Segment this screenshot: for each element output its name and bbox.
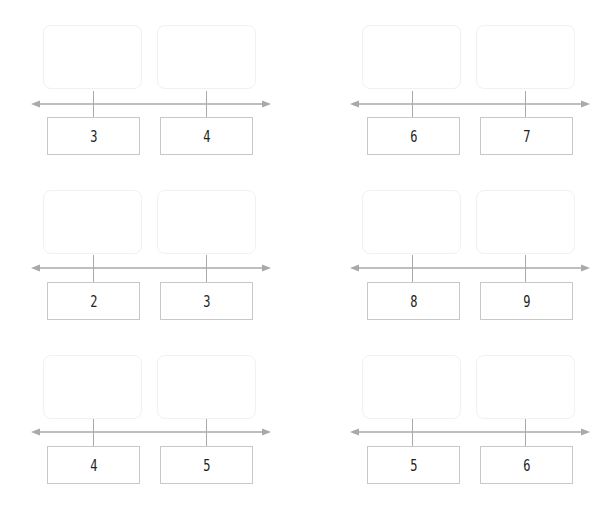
number-line-axis: [350, 98, 590, 110]
answer-box[interactable]: [157, 355, 256, 419]
tick-mark: [412, 255, 413, 282]
answer-box[interactable]: [476, 25, 575, 89]
tick-mark: [525, 255, 526, 282]
tick-mark: [93, 91, 94, 117]
number-line-group: 3 4: [31, 25, 281, 165]
answer-box[interactable]: [476, 190, 575, 254]
number-box: 6: [480, 446, 573, 484]
tick-mark: [206, 419, 207, 446]
tick-mark: [93, 419, 94, 446]
tick-mark: [525, 91, 526, 117]
number-box: 9: [480, 282, 573, 320]
number-box: 4: [160, 117, 253, 155]
answer-box[interactable]: [43, 25, 142, 89]
number-label: 6: [410, 127, 417, 146]
answer-box[interactable]: [157, 25, 256, 89]
answer-box[interactable]: [362, 355, 461, 419]
number-label: 9: [523, 292, 530, 311]
answer-box[interactable]: [476, 355, 575, 419]
answer-box[interactable]: [157, 190, 256, 254]
number-label: 5: [410, 456, 417, 475]
answer-box[interactable]: [43, 190, 142, 254]
number-label: 5: [203, 456, 210, 475]
number-line-axis: [31, 426, 271, 438]
tick-mark: [206, 91, 207, 117]
tick-mark: [412, 91, 413, 117]
number-label: 7: [523, 127, 530, 146]
answer-box[interactable]: [362, 25, 461, 89]
answer-box[interactable]: [43, 355, 142, 419]
tick-mark: [412, 419, 413, 446]
number-box: 3: [47, 117, 140, 155]
number-line-group: 8 9: [350, 190, 600, 330]
number-box: 8: [367, 282, 460, 320]
number-box: 6: [367, 117, 460, 155]
number-label: 3: [203, 292, 210, 311]
number-box: 2: [47, 282, 140, 320]
number-label: 4: [90, 456, 97, 475]
tick-mark: [525, 419, 526, 446]
number-box: 3: [160, 282, 253, 320]
number-line-group: 4 5: [31, 355, 281, 495]
number-label: 2: [90, 292, 97, 311]
number-line-axis: [350, 426, 590, 438]
number-box: 7: [480, 117, 573, 155]
number-label: 8: [410, 292, 417, 311]
number-line-axis: [350, 262, 590, 274]
number-box: 4: [47, 446, 140, 484]
number-box: 5: [367, 446, 460, 484]
tick-mark: [206, 255, 207, 282]
number-label: 3: [90, 127, 97, 146]
number-line-axis: [31, 98, 271, 110]
number-line-group: 6 7: [350, 25, 600, 165]
number-line-group: 5 6: [350, 355, 600, 495]
number-line-axis: [31, 262, 271, 274]
number-label: 6: [523, 456, 530, 475]
answer-box[interactable]: [362, 190, 461, 254]
number-line-group: 2 3: [31, 190, 281, 330]
number-label: 4: [203, 127, 210, 146]
number-box: 5: [160, 446, 253, 484]
tick-mark: [93, 255, 94, 282]
